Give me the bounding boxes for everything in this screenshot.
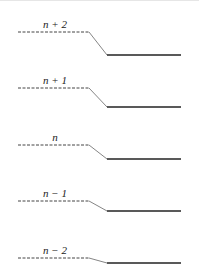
level-row: n [18, 131, 181, 159]
level-row: n + 2 [18, 18, 181, 55]
connector-line [89, 258, 107, 263]
energy-level-diagram: n + 2n + 1nn − 1n − 2 [0, 0, 199, 274]
connector-line [89, 32, 107, 55]
connector-line [89, 145, 107, 159]
level-label: n [52, 131, 58, 143]
connector-line [89, 201, 107, 211]
level-row: n + 1 [18, 74, 181, 107]
level-label: n − 1 [43, 187, 67, 199]
level-label: n + 1 [43, 74, 67, 86]
connector-line [89, 88, 107, 107]
level-label: n + 2 [43, 18, 67, 30]
level-row: n − 2 [18, 244, 181, 263]
level-row: n − 1 [18, 187, 181, 211]
level-label: n − 2 [43, 244, 67, 256]
